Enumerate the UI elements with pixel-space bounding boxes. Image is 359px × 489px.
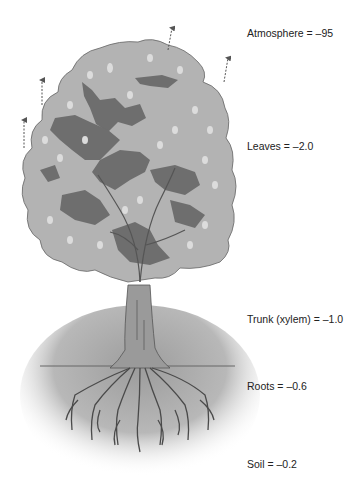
canopy	[22, 40, 236, 282]
label-atmosphere: Atmosphere = –95	[247, 27, 333, 39]
label-leaves: Leaves = –2.0	[247, 140, 313, 152]
label-trunk-xylem: Trunk (xylem) = –1.0	[247, 313, 343, 325]
arrow-up-icon	[224, 58, 228, 82]
label-roots: Roots = –0.6	[247, 380, 307, 392]
label-soil: Soil = –0.2	[247, 458, 297, 470]
tree-diagram	[0, 0, 359, 489]
